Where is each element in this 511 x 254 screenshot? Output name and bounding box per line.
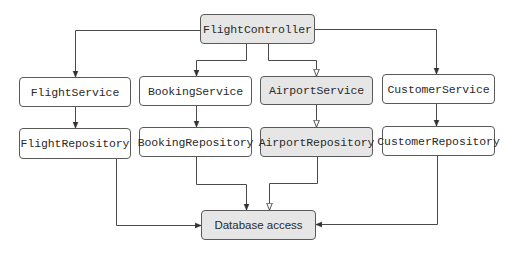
node-flight-service: FlightService xyxy=(19,77,131,107)
node-flight-repository: FlightRepository xyxy=(19,128,131,159)
edge-controller-flightservice xyxy=(76,31,201,77)
edge-customerrepository-database xyxy=(317,156,438,225)
node-label: FlightController xyxy=(203,23,312,36)
node-label: AirportService xyxy=(269,84,364,97)
node-database-access: Database access xyxy=(201,210,316,240)
node-label: FlightService xyxy=(31,86,119,99)
node-airport-service: AirportService xyxy=(260,76,373,105)
node-label: Database access xyxy=(214,219,302,231)
node-label: CustomerService xyxy=(387,83,489,96)
node-label: CustomerRepository xyxy=(377,135,499,148)
architecture-diagram: FlightController FlightService BookingSe… xyxy=(0,0,511,254)
node-label: AirportRepository xyxy=(259,136,375,149)
edge-controller-bookingservice xyxy=(197,44,247,76)
node-label: BookingRepository xyxy=(138,136,254,149)
edge-controller-customerservice xyxy=(315,30,437,74)
node-label: FlightRepository xyxy=(21,137,130,150)
edge-airportrepository-database xyxy=(270,157,318,210)
edge-controller-airportservice xyxy=(269,44,317,76)
node-customer-repository: CustomerRepository xyxy=(382,126,495,156)
node-customer-service: CustomerService xyxy=(382,74,495,104)
edge-bookingrepository-database xyxy=(197,157,247,210)
edge-flightrepository-database xyxy=(117,159,201,226)
node-flight-controller: FlightController xyxy=(200,14,315,44)
node-booking-service: BookingService xyxy=(139,76,252,106)
node-booking-repository: BookingRepository xyxy=(139,127,252,157)
node-airport-repository: AirportRepository xyxy=(260,127,373,157)
node-label: BookingService xyxy=(148,85,243,98)
